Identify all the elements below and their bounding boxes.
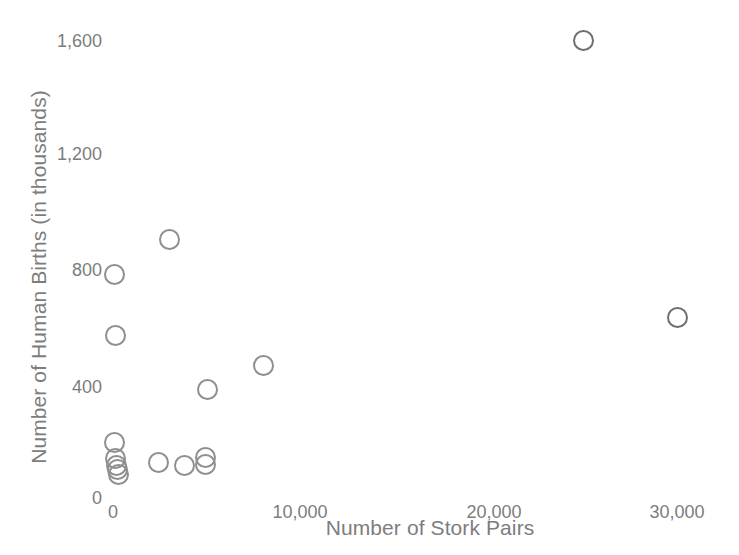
y-tick-label-800: 800 [20,261,102,279]
scatter-point [195,447,216,468]
x-axis-spine [112,497,702,498]
scatter-point [197,379,218,400]
scatter-point [667,307,688,328]
scatter-point [106,455,127,476]
x-tick-label-20000: 20,000 [439,503,549,521]
scatter-point [105,325,126,346]
scatter-point [148,452,169,473]
scatter-point [573,30,594,51]
x-tick-label-10000: 10,000 [245,503,355,521]
scatter-point [195,454,216,475]
y-tick-label-1600: 1,600 [20,32,102,50]
scatter-plot-figure: Number of Human Births (in thousands) Nu… [0,0,739,555]
scatter-point [253,355,274,376]
y-tick-label-1200: 1,200 [20,145,102,163]
y-tick-label-400: 400 [20,378,102,396]
y-axis-spine [112,38,113,498]
scatter-point [105,448,126,469]
plot-area [0,0,739,555]
scatter-point [107,459,128,480]
scatter-point [174,455,195,476]
scatter-point [104,264,125,285]
scatter-point [159,229,180,250]
scatter-point [104,432,125,453]
x-tick-label-0: 0 [83,503,143,521]
x-tick-label-30000: 30,000 [622,503,732,521]
